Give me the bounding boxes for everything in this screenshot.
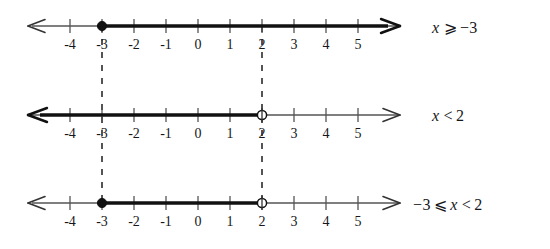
inequality-label-3: −3⩽x<2 xyxy=(413,195,483,214)
tick-label: -3 xyxy=(96,126,108,141)
inequality-2-relation: < xyxy=(441,107,456,124)
tick-label: -1 xyxy=(160,214,172,229)
inequality-3-upper-bound: 2 xyxy=(474,196,482,213)
inequality-1-relation: ⩾ xyxy=(441,19,460,36)
tick-label: 0 xyxy=(195,126,202,141)
tick-label: -4 xyxy=(64,214,76,229)
inequality-3-lower-bound: −3 xyxy=(413,196,431,213)
tick-labels-1: -4 -3 -2 -1 0 1 2 3 4 5 xyxy=(64,37,361,52)
inequality-3-relation-left: ⩽ xyxy=(431,196,450,213)
tick-label: 1 xyxy=(227,214,234,229)
tick-labels-2: -4 -3 -2 -1 0 1 2 3 4 5 xyxy=(64,126,361,141)
tick-label: 2 xyxy=(259,126,266,141)
tick-label: 4 xyxy=(323,126,330,141)
inequality-1-variable: x xyxy=(432,19,441,36)
tick-label: 5 xyxy=(355,214,362,229)
tick-label: -2 xyxy=(128,37,140,52)
inequality-2-variable: x xyxy=(432,107,441,124)
inequality-1-value: −3 xyxy=(460,19,478,36)
closed-endpoint-neg3-line3 xyxy=(97,198,106,207)
tick-label: -1 xyxy=(160,37,172,52)
number-line-2: -4 -3 -2 -1 0 1 2 3 4 5 xyxy=(28,108,400,141)
number-line-1: -4 -3 -2 -1 0 1 2 3 4 5 xyxy=(28,19,400,52)
tick-label: -1 xyxy=(160,126,172,141)
tick-label: 2 xyxy=(259,214,266,229)
tick-label: 5 xyxy=(355,37,362,52)
tick-labels-3: -4 -3 -2 -1 0 1 2 3 4 5 xyxy=(64,214,361,229)
solution-ray-2 xyxy=(28,108,262,122)
tick-label: 2 xyxy=(259,37,266,52)
tick-label: 1 xyxy=(227,37,234,52)
number-line-3: -4 -3 -2 -1 0 1 2 3 4 5 xyxy=(28,196,400,229)
number-line-figure: -4 -3 -2 -1 0 1 2 3 4 5 xyxy=(0,0,550,249)
tick-label: 3 xyxy=(291,37,298,52)
tick-label: -2 xyxy=(128,126,140,141)
tick-label: 0 xyxy=(195,37,202,52)
tick-label: -4 xyxy=(64,126,76,141)
tick-label: 4 xyxy=(323,37,330,52)
closed-endpoint-neg3-line1 xyxy=(97,21,106,30)
tick-label: -3 xyxy=(96,37,108,52)
tick-label: -2 xyxy=(128,214,140,229)
tick-label: 1 xyxy=(227,126,234,141)
solution-ray-1 xyxy=(102,19,400,33)
inequality-label-2: x<2 xyxy=(432,107,464,125)
tick-label: 3 xyxy=(291,126,298,141)
tick-label: -4 xyxy=(64,37,76,52)
tick-label: 5 xyxy=(355,126,362,141)
tick-label: 0 xyxy=(195,214,202,229)
inequality-3-relation-right: < xyxy=(459,196,474,213)
tick-label: 4 xyxy=(323,214,330,229)
inequality-3-variable: x xyxy=(450,196,459,213)
tick-label: -3 xyxy=(96,214,108,229)
inequality-2-value: 2 xyxy=(456,107,464,124)
tick-label: 3 xyxy=(291,214,298,229)
inequality-label-1: x⩾−3 xyxy=(432,18,478,37)
